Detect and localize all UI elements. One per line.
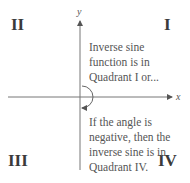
upper-note: Inverse sine function is in Quadrant I o… bbox=[89, 40, 159, 85]
inverse-sine-quadrant-diagram: y x II I III IV Inverse sine function is… bbox=[0, 0, 190, 183]
quadrant-i-label: I bbox=[164, 16, 171, 33]
lower-note: If the angle is negative, then the inver… bbox=[89, 115, 170, 175]
quadrant-ii-label: II bbox=[11, 16, 24, 33]
y-axis-label: y bbox=[77, 7, 81, 17]
quadrant-iii-label: III bbox=[8, 152, 28, 169]
x-axis-label: x bbox=[176, 92, 180, 102]
